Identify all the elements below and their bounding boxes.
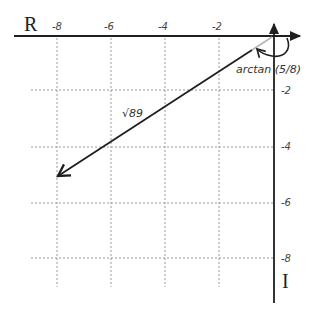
imag-tick-label: -6 <box>281 197 291 208</box>
imaginary-axis-label: I <box>282 270 289 292</box>
imag-tick-label: -4 <box>281 141 291 152</box>
imag-tick-label: -2 <box>281 85 291 96</box>
complex-plane-diagram: R I -8 -6 -4 -2 -2 -4 -6 -8 √89 arctan (… <box>0 0 318 317</box>
imag-tick-label: -8 <box>281 253 291 264</box>
angle-arc <box>257 38 289 56</box>
vector-arrow <box>58 50 252 176</box>
angle-label: arctan (5/8) <box>236 63 301 76</box>
grid-vertical-lines <box>57 38 219 287</box>
real-tick-label: -2 <box>212 21 222 32</box>
real-tick-label: -6 <box>104 21 114 32</box>
vector-faded-segment <box>252 37 272 50</box>
magnitude-label: √89 <box>122 107 143 120</box>
real-tick-label: -4 <box>158 21 168 32</box>
real-axis-label: R <box>24 13 38 35</box>
real-tick-label: -8 <box>52 21 62 32</box>
